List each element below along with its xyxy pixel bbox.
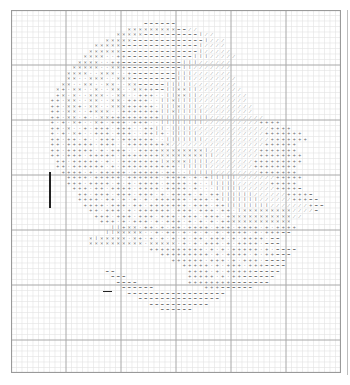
dash-symbol: − — [292, 247, 298, 253]
dash-symbol: − — [248, 285, 254, 291]
dash-symbol: − — [270, 274, 276, 280]
dash-symbol: − — [275, 269, 281, 275]
slash-symbol: ⁄ — [297, 214, 303, 220]
stitch-symbols: −−−−−−×××××××××−−⁄⁄×××××−−−−−−−−−−ǀ⁄⁄×××… — [11, 10, 341, 373]
dash-symbol: − — [319, 203, 325, 209]
cross-stitch-chart: −−−−−−×××××××××−−⁄⁄×××××−−−−−−−−−−ǀ⁄⁄×××… — [11, 10, 341, 373]
right-edge-divider — [347, 10, 348, 375]
slash-symbol: ⁄ — [231, 54, 237, 60]
dash-symbol: − — [286, 230, 292, 236]
column-marker-bar — [103, 291, 112, 292]
dash-symbol: − — [220, 291, 226, 297]
plus-symbol: + — [303, 137, 309, 143]
dash-symbol: − — [264, 280, 270, 286]
plus-symbol: + — [297, 159, 303, 165]
dash-symbol: − — [204, 302, 210, 308]
dash-symbol: − — [215, 296, 221, 302]
row-marker-bar — [49, 172, 51, 208]
plus-symbol: + — [297, 175, 303, 181]
plus-symbol: + — [292, 225, 298, 231]
dash-symbol: − — [281, 263, 287, 269]
dash-symbol: − — [187, 307, 193, 313]
dash-symbol: − — [286, 252, 292, 258]
dash-symbol: − — [314, 208, 320, 214]
